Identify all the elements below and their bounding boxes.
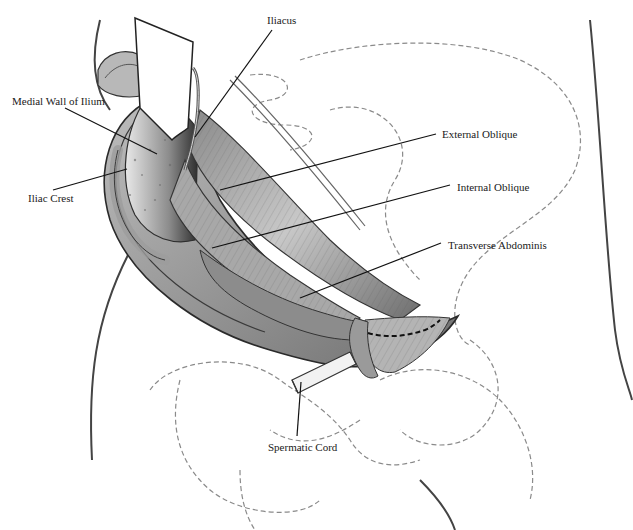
leader-line-iliacus xyxy=(195,30,272,137)
label-external-oblique: External Oblique xyxy=(442,128,517,140)
label-transverse-abdominis: Transverse Abdominis xyxy=(448,239,547,251)
label-spermatic-cord: Spermatic Cord xyxy=(268,441,337,453)
label-iliacus: Iliacus xyxy=(267,14,296,26)
label-iliac-crest: Iliac Crest xyxy=(28,192,74,204)
label-internal-oblique: Internal Oblique xyxy=(457,181,529,193)
label-medial-wall-of-ilium: Medial Wall of Ilium xyxy=(12,95,105,107)
